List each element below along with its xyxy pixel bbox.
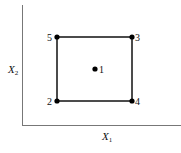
point-4 [129, 98, 134, 103]
design-diagram: 5 3 2 4 1 X2 X1 [0, 0, 181, 153]
point-5 [54, 34, 59, 39]
point-label-5: 5 [47, 32, 52, 43]
point-label-3: 3 [135, 32, 140, 43]
x-axis-label: X1 [101, 130, 113, 144]
point-1 [92, 66, 97, 71]
point-label-4: 4 [135, 96, 140, 107]
point-label-2: 2 [47, 96, 52, 107]
point-label-1: 1 [99, 64, 104, 75]
point-2 [54, 98, 59, 103]
point-3 [129, 34, 134, 39]
y-axis-label: X2 [7, 63, 19, 77]
